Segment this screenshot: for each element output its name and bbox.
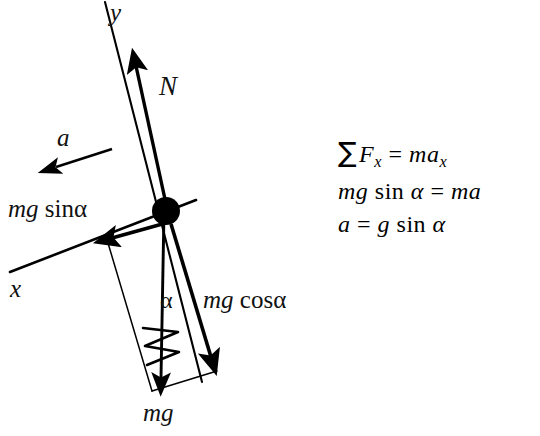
vector-label-mg-sin-alpha: mg sinα: [8, 196, 87, 221]
eq2-rhs: ma: [451, 178, 481, 204]
particle-body: [152, 197, 180, 225]
vector-label-normal-force: N: [159, 73, 177, 100]
eq1-lhs: F: [359, 141, 374, 167]
eq1-rhs-subscript: x: [439, 152, 447, 171]
eq2-lhs: mg: [338, 178, 368, 204]
equation-newton-second-law-incline: mg sin α = ma: [338, 178, 481, 205]
vector-acceleration: [56, 149, 112, 167]
mg-sin-roman-part: sinα: [39, 195, 88, 222]
eq1-rhs: ma: [409, 141, 439, 167]
eq3-relation: =: [357, 211, 371, 237]
vector-label-acceleration: a: [57, 125, 70, 150]
eq3-alpha: α: [433, 211, 446, 237]
eq1-relation: =: [389, 141, 403, 167]
eq2-alpha: α: [411, 178, 424, 204]
equation-block: ∑Fx = max mg sin α = ma a = g sin α: [338, 136, 481, 244]
eq1-lhs-subscript: x: [374, 152, 382, 171]
mg-cos-italic-part: mg: [203, 286, 234, 313]
eq3-g: g: [378, 211, 391, 237]
mg-cos-roman-part: cosα: [234, 286, 287, 313]
eq2-sin: sin: [375, 178, 405, 204]
mg-sin-italic-part: mg: [8, 195, 39, 222]
axis-label-x: x: [10, 276, 21, 301]
vector-label-mg-cos-alpha: mg cosα: [203, 287, 286, 312]
equation-acceleration-result: a = g sin α: [338, 211, 481, 238]
axis-label-y: y: [110, 0, 121, 25]
vector-label-weight: mg: [143, 400, 174, 425]
eq2-relation: =: [430, 178, 444, 204]
eq3-sin: sin: [397, 211, 427, 237]
axis-y: [105, 2, 202, 382]
sigma-symbol: ∑: [338, 136, 359, 169]
eq3-lhs: a: [338, 211, 351, 237]
equation-sum-forces-x: ∑Fx = max: [338, 136, 481, 172]
angle-label-alpha: α: [160, 288, 173, 312]
figure-canvas: y x N a mg sinα mg cosα mg α ∑Fx = max m…: [0, 0, 540, 436]
